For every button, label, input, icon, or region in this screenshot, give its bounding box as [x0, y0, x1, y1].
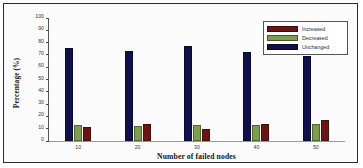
- y-tick-mark: [46, 141, 49, 142]
- bar-increased: [202, 129, 210, 141]
- y-tick-label: 30: [38, 99, 44, 105]
- bar-decreased: [193, 125, 201, 141]
- legend-swatch-decreased: [267, 35, 298, 41]
- x-tick-label: 10: [75, 144, 81, 150]
- bar-decreased: [252, 125, 260, 141]
- legend-swatch-increased: [267, 26, 298, 32]
- bar-increased: [83, 127, 91, 141]
- y-tick-label: 100: [35, 13, 44, 19]
- y-tick-mark: [46, 91, 49, 92]
- figure-frame: Percentage (%) 0102030405060708090100 10…: [3, 3, 358, 163]
- bar-increased: [261, 124, 269, 141]
- y-tick-label: 40: [38, 87, 44, 93]
- y-tick-label: 90: [38, 25, 44, 31]
- legend-item-increased: Increased: [267, 25, 344, 34]
- y-tick-mark: [46, 30, 49, 31]
- y-tick-label: 10: [38, 124, 44, 130]
- bar-unchanged: [303, 56, 311, 141]
- chart-legend: Increased Decreased Unchanged: [263, 21, 348, 55]
- y-tick-mark: [46, 54, 49, 55]
- x-axis-title: Number of failed nodes: [48, 152, 345, 161]
- y-tick-mark: [46, 104, 49, 105]
- x-tick-label: 50: [313, 144, 319, 150]
- y-axis-title: Percentage (%): [12, 58, 21, 108]
- legend-item-unchanged: Unchanged: [267, 43, 344, 52]
- y-tick-label: 20: [38, 111, 44, 117]
- x-tick-label: 40: [254, 144, 260, 150]
- y-tick-label: 70: [38, 50, 44, 56]
- y-tick-label: 50: [38, 75, 44, 81]
- y-tick-mark: [46, 67, 49, 68]
- bar-decreased: [312, 124, 320, 141]
- y-tick-mark: [46, 79, 49, 80]
- legend-swatch-unchanged: [267, 44, 298, 50]
- y-tick-mark: [46, 116, 49, 117]
- bar-decreased: [74, 125, 82, 141]
- y-tick-label: 60: [38, 62, 44, 68]
- legend-item-decreased: Decreased: [267, 34, 344, 43]
- y-tick-label: 80: [38, 38, 44, 44]
- bar-group: [184, 19, 211, 141]
- x-tick-label: 20: [135, 144, 141, 150]
- bar-increased: [321, 120, 329, 141]
- bar-group: [65, 19, 92, 141]
- bar-decreased: [134, 126, 142, 141]
- bar-unchanged: [243, 52, 251, 141]
- y-tick-mark: [46, 128, 49, 129]
- bar-group: [125, 19, 152, 141]
- figure-canvas: Percentage (%) 0102030405060708090100 10…: [4, 4, 357, 162]
- y-tick-mark: [46, 18, 49, 19]
- y-tick-label: 0: [41, 136, 44, 142]
- bar-unchanged: [184, 46, 192, 141]
- bar-unchanged: [125, 51, 133, 141]
- legend-label-decreased: Decreased: [302, 35, 328, 41]
- y-tick-mark: [46, 42, 49, 43]
- bar-increased: [143, 124, 151, 141]
- legend-label-increased: Increased: [302, 26, 325, 32]
- x-tick-label: 30: [194, 144, 200, 150]
- legend-label-unchanged: Unchanged: [302, 44, 329, 50]
- bar-unchanged: [65, 48, 73, 141]
